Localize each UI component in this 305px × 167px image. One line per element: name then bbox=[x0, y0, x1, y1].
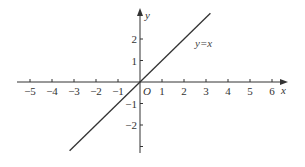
y-tick-label: −1 bbox=[125, 98, 137, 110]
x-tick-label: −1 bbox=[112, 85, 124, 97]
x-tick-label: 4 bbox=[225, 85, 231, 97]
origin-label: O bbox=[143, 85, 151, 97]
x-tick-label: −5 bbox=[24, 85, 36, 97]
x-tick-label: 1 bbox=[159, 85, 165, 97]
x-tick-label: −4 bbox=[46, 85, 58, 97]
y-axis-arrow-icon bbox=[137, 8, 143, 16]
x-tick-label: −2 bbox=[90, 85, 102, 97]
y-tick-label: −2 bbox=[125, 119, 137, 131]
axes bbox=[17, 8, 288, 153]
y-axis-label: y bbox=[144, 9, 150, 21]
y-tick-label: 2 bbox=[132, 33, 138, 45]
x-tick-label: −3 bbox=[68, 85, 80, 97]
x-axis-label: x bbox=[280, 84, 286, 96]
coordinate-plane: −5−4−3−2−1123456 −2−112 x y O y=x bbox=[0, 0, 305, 167]
x-tick-label: 3 bbox=[203, 85, 209, 97]
y-tick-label: 1 bbox=[132, 55, 138, 67]
x-tick-label: 5 bbox=[247, 85, 253, 97]
line-annotation: y=x bbox=[194, 37, 212, 49]
x-tick-label: 6 bbox=[269, 85, 275, 97]
x-tick-label: 2 bbox=[181, 85, 187, 97]
